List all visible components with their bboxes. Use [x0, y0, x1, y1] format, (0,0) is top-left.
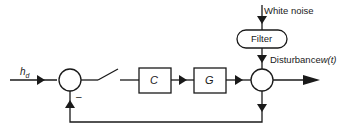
noise-arrow-icon — [257, 16, 267, 24]
disturbance-label-var: w(t) — [321, 54, 337, 65]
input-label: hd — [20, 67, 29, 79]
g-to-junction-arrow-icon — [235, 75, 243, 85]
sampler-switch-icon — [98, 69, 118, 80]
feedback-down-arrow-icon — [257, 104, 267, 112]
feedback-up-arrow-icon — [65, 100, 75, 108]
c-to-g-arrow-icon — [179, 75, 187, 85]
output-arrow-icon — [303, 75, 320, 85]
input-label-sub: d — [26, 72, 30, 79]
feedback-sign: – — [76, 92, 82, 102]
block-diagram — [0, 0, 345, 134]
feedback-line — [70, 91, 262, 122]
summing-junction-right — [251, 69, 273, 91]
white-noise-label: White noise — [264, 6, 314, 16]
disturbance-label-text: Disturbance — [270, 54, 321, 65]
disturbance-label: Disturbancew(t) — [270, 55, 337, 65]
filter-label: Filter — [251, 34, 272, 44]
controller-label: C — [150, 75, 158, 86]
plant-label: G — [205, 75, 214, 86]
input-arrow-icon — [37, 75, 45, 85]
summing-junction-left — [59, 69, 81, 91]
disturbance-arrow-icon — [257, 55, 267, 63]
